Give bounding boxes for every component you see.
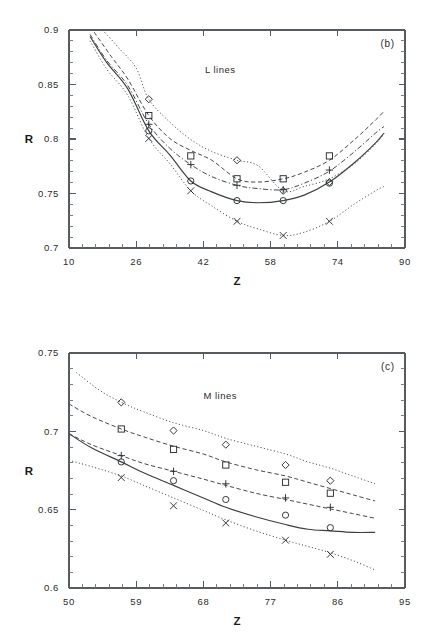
chart-panel-c: 5059687786950.60.650.70.75ZR(c)M lines <box>0 320 441 642</box>
series-curve-square-series <box>94 32 384 182</box>
marker-plus <box>187 161 194 168</box>
x-tick-label: 95 <box>399 596 411 607</box>
series-curve-circle-series <box>90 37 384 203</box>
x-tick-label: 42 <box>198 256 210 267</box>
marker-square <box>170 446 176 452</box>
series-curve-cross-series <box>90 41 384 236</box>
x-tick-label: 86 <box>332 596 344 607</box>
marker-cross <box>187 187 194 194</box>
x-tick-label: 10 <box>63 256 75 267</box>
figure-container: 1026425874900.70.750.80.850.9ZR(b)L line… <box>0 0 441 642</box>
marker-square <box>188 153 194 159</box>
series-markers-cross-series <box>145 135 332 239</box>
marker-cross <box>118 474 125 481</box>
marker-cross <box>170 502 177 509</box>
y-tick-label: 0.8 <box>44 133 59 144</box>
series-curve-diamond-series <box>103 30 384 192</box>
panel-tag: (c) <box>381 361 395 372</box>
panel-b-plot-area: 1026425874900.70.750.80.850.9ZR(b)L line… <box>25 24 411 287</box>
marker-cross <box>326 218 333 225</box>
y-tick-label: 0.65 <box>38 504 59 515</box>
y-axis-title: R <box>25 133 34 145</box>
x-tick-label: 58 <box>265 256 277 267</box>
marker-cross <box>222 520 229 527</box>
x-tick-label: 74 <box>332 256 344 267</box>
marker-diamond <box>170 427 177 434</box>
marker-plus <box>233 182 240 189</box>
marker-square <box>326 153 332 159</box>
marker-circle <box>223 496 229 502</box>
panel-c-plot-area: 5059687786950.60.650.70.75ZR(c)M lines <box>25 347 411 627</box>
x-tick-label: 68 <box>198 596 210 607</box>
y-tick-label: 0.7 <box>44 242 59 253</box>
y-tick-label: 0.6 <box>44 582 59 593</box>
panel-c-svg: 5059687786950.60.650.70.75ZR(c)M lines <box>0 320 441 642</box>
series-curve-plus-series <box>90 34 384 190</box>
marker-diamond <box>282 461 289 468</box>
panel-annotation: M lines <box>203 390 237 401</box>
x-tick-label: 50 <box>63 596 75 607</box>
marker-square <box>282 479 288 485</box>
series-markers-circle-series <box>146 128 333 204</box>
marker-plus <box>222 480 229 487</box>
marker-cross <box>327 551 334 558</box>
series-markers-square-series <box>146 112 333 181</box>
panel-annotation: L lines <box>205 64 236 75</box>
marker-circle <box>170 478 176 484</box>
marker-cross <box>282 537 289 544</box>
y-tick-label: 0.9 <box>44 24 59 35</box>
y-tick-label: 0.75 <box>38 188 59 199</box>
marker-cross <box>145 135 152 142</box>
marker-diamond <box>222 441 229 448</box>
chart-panel-b: 1026425874900.70.750.80.850.9ZR(b)L line… <box>0 0 441 320</box>
x-tick-label: 77 <box>265 596 277 607</box>
x-axis-title: Z <box>233 615 240 627</box>
marker-circle <box>282 512 288 518</box>
marker-circle <box>327 525 333 531</box>
marker-square <box>234 176 240 182</box>
x-tick-label: 59 <box>130 596 142 607</box>
x-tick-label: 26 <box>130 256 142 267</box>
marker-cross <box>234 218 241 225</box>
marker-square <box>327 490 333 496</box>
y-axis-title: R <box>25 465 34 477</box>
series-curve-square-series <box>69 404 375 501</box>
y-tick-label: 0.7 <box>44 426 59 437</box>
x-tick-label: 90 <box>399 256 411 267</box>
marker-square <box>146 112 152 118</box>
y-tick-label: 0.85 <box>38 79 59 90</box>
series-markers-diamond-series <box>118 399 334 485</box>
x-axis-title: Z <box>233 275 240 287</box>
marker-diamond <box>145 96 152 103</box>
marker-plus <box>170 468 177 475</box>
panel-b-svg: 1026425874900.70.750.80.850.9ZR(b)L line… <box>0 0 441 320</box>
marker-diamond <box>327 477 334 484</box>
panel-tag: (b) <box>380 38 395 49</box>
marker-diamond <box>118 399 125 406</box>
marker-plus <box>282 494 289 501</box>
y-tick-label: 0.75 <box>38 347 59 358</box>
marker-plus <box>118 452 125 459</box>
series-markers-circle-series <box>118 459 333 531</box>
